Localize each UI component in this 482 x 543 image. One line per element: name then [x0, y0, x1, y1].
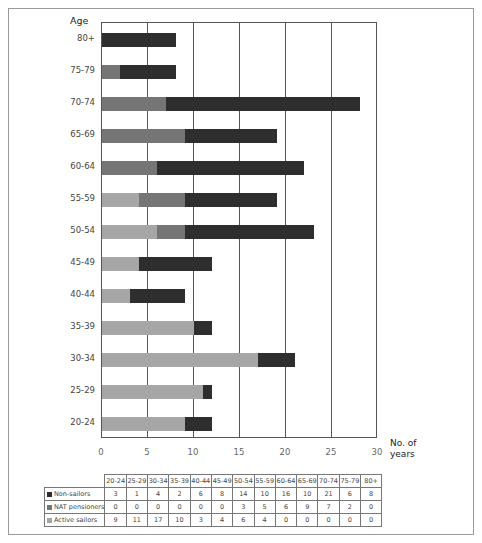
- bar-segment-non: [130, 289, 185, 303]
- bar-segment-non: [185, 225, 314, 239]
- table-cell: 6: [233, 514, 254, 527]
- table-cell: 10: [254, 488, 275, 501]
- y-tick-label: 65-69: [45, 129, 95, 139]
- y-tick-label: 40-44: [45, 289, 95, 299]
- table-cell: 8: [211, 488, 232, 501]
- table-header-cell: 55-59: [254, 475, 275, 488]
- y-tick-label: 75-79: [45, 65, 95, 75]
- table-cell: 6: [190, 488, 211, 501]
- x-tick-label: 5: [137, 447, 157, 457]
- bar-segment-nat: [102, 129, 185, 143]
- table-cell: 0: [211, 501, 232, 514]
- table-cell: 0: [275, 514, 296, 527]
- table-header-cell: 60-64: [275, 475, 296, 488]
- table-cell: 17: [148, 514, 169, 527]
- x-tick-label: 10: [183, 447, 203, 457]
- bar-35-39: [102, 321, 212, 335]
- y-tick-label: 35-39: [45, 321, 95, 331]
- bar-80+: [102, 33, 176, 47]
- y-tick-label: 50-54: [45, 225, 95, 235]
- table-header-cell: 65-69: [297, 475, 318, 488]
- table-cell: 11: [126, 514, 147, 527]
- bar-segment-active: [102, 321, 194, 335]
- y-tick-label: 20-24: [45, 417, 95, 427]
- table-header-cell: 25-29: [126, 475, 147, 488]
- x-axis-title: No. of years: [390, 438, 416, 460]
- table-cell: 0: [105, 501, 126, 514]
- table-corner: [45, 475, 105, 488]
- table-cell: 6: [275, 501, 296, 514]
- table-header-cell: 80+: [361, 475, 382, 488]
- bar-segment-non: [203, 385, 212, 399]
- bar-segment-active: [102, 193, 139, 207]
- x-axis-title-line2: years: [390, 449, 416, 460]
- y-tick-label: 30-34: [45, 353, 95, 363]
- bar-70-74: [102, 97, 360, 111]
- table-cell: 4: [254, 514, 275, 527]
- bar-segment-non: [157, 161, 304, 175]
- bar-65-69: [102, 129, 277, 143]
- table-cell: 3: [233, 501, 254, 514]
- y-tick-label: 55-59: [45, 193, 95, 203]
- bar-segment-nat: [139, 193, 185, 207]
- table-cell: 1: [126, 488, 147, 501]
- bar-segment-nat: [102, 65, 120, 79]
- y-tick-label: 60-64: [45, 161, 95, 171]
- table-row: Active sailors9111710346400000: [45, 514, 382, 527]
- plot-area: [101, 22, 377, 438]
- x-axis-title-line1: No. of: [390, 438, 416, 449]
- x-tick-label: 20: [275, 447, 295, 457]
- table-header-cell: 20-24: [105, 475, 126, 488]
- bar-segment-active: [102, 417, 185, 431]
- table-cell: 6: [339, 488, 360, 501]
- table-header-cell: 45-49: [211, 475, 232, 488]
- table-header-cell: 40-44: [190, 475, 211, 488]
- bar-segment-nat: [102, 97, 166, 111]
- y-tick-label: 80+: [45, 33, 95, 43]
- table-cell: 16: [275, 488, 296, 501]
- bar-segment-active: [102, 257, 139, 271]
- table-cell: 4: [211, 514, 232, 527]
- legend-label: Non-sailors: [45, 488, 105, 501]
- table-cell: 2: [339, 501, 360, 514]
- bar-segment-active: [102, 385, 203, 399]
- table-header-cell: 70-74: [318, 475, 339, 488]
- table-cell: 4: [148, 488, 169, 501]
- legend-swatch-icon: [47, 505, 52, 510]
- bar-segment-non: [194, 321, 212, 335]
- table-cell: 0: [169, 501, 190, 514]
- table-cell: 0: [361, 514, 382, 527]
- table-header-row: 20-2425-2930-3435-3940-4445-4950-5455-59…: [45, 475, 382, 488]
- x-tick-label: 25: [321, 447, 341, 457]
- bar-segment-non: [185, 129, 277, 143]
- bar-30-34: [102, 353, 295, 367]
- legend-swatch-icon: [47, 492, 52, 497]
- table-cell: 0: [126, 501, 147, 514]
- y-tick-label: 70-74: [45, 97, 95, 107]
- table-cell: 3: [190, 514, 211, 527]
- table-cell: 0: [297, 514, 318, 527]
- table-cell: 10: [169, 514, 190, 527]
- x-tick-label: 15: [229, 447, 249, 457]
- table-cell: 0: [318, 514, 339, 527]
- y-tick-label: 25-29: [45, 385, 95, 395]
- table-cell: 0: [339, 514, 360, 527]
- table-cell: 0: [190, 501, 211, 514]
- table-header-cell: 30-34: [148, 475, 169, 488]
- bar-50-54: [102, 225, 314, 239]
- table-cell: 8: [361, 488, 382, 501]
- bar-segment-active: [102, 289, 130, 303]
- bar-60-64: [102, 161, 304, 175]
- table-cell: 7: [318, 501, 339, 514]
- legend-label: Active sailors: [45, 514, 105, 527]
- table-header-cell: 75-79: [339, 475, 360, 488]
- bar-75-79: [102, 65, 176, 79]
- bar-segment-non: [120, 65, 175, 79]
- legend-swatch-icon: [47, 518, 52, 523]
- x-tick-label: 0: [91, 447, 111, 457]
- bar-segment-non: [102, 33, 176, 47]
- bar-20-24: [102, 417, 212, 431]
- bar-segment-non: [185, 417, 213, 431]
- bar-40-44: [102, 289, 185, 303]
- table-row: NAT pensioners0000003569720: [45, 501, 382, 514]
